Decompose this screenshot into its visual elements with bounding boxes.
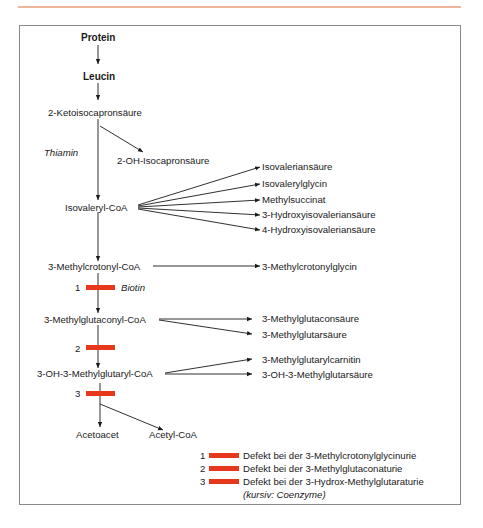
side-isovaleriansaeure: Isovaleriansäure	[262, 161, 332, 172]
defect-number-2: 2	[75, 343, 80, 354]
defect-number-1: 1	[75, 282, 80, 293]
node-2-ketoisocapronsaeure: 2-Ketoisocapronsäure	[48, 107, 142, 118]
node-3-methylcrotonyl-coa: 3-Methylcrotonyl-CoA	[48, 261, 140, 272]
legend-number-1: 1	[200, 450, 205, 461]
node-leucin: Leucin	[83, 71, 115, 82]
node-hmg-coa: 3-OH-3-Methylglutaryl-CoA	[37, 368, 153, 379]
legend-label-1: Defekt bei der 3-Methylcrotonylglycinuri…	[243, 450, 416, 461]
side-3-oh-3-methylglutarsaeure: 3-OH-3-Methylglutarsäure	[262, 369, 373, 380]
node-acetoacet: Acetoacet	[76, 429, 119, 440]
legend-bar-2	[209, 466, 239, 471]
node-protein: Protein	[81, 32, 115, 43]
legend-bar-1	[209, 453, 239, 458]
side-3-methylglutarylcarnitin: 3-Methylglutarylcarnitin	[262, 354, 361, 365]
side-isovalerylglycin: Isovalerylglycin	[262, 178, 327, 189]
legend-bar-3	[209, 479, 239, 484]
legend-note: (kursiv: Coenzyme)	[243, 489, 326, 500]
coenzyme-thiamin: Thiamin	[44, 147, 78, 158]
side-4-hydroxyisovaleriansaeure: 4-Hydroxyisovaleriansäure	[262, 224, 376, 235]
legend-number-2: 2	[200, 463, 205, 474]
side-2-oh-isocapronsaeure: 2-OH-Isocapronsäure	[117, 155, 209, 166]
node-3-methylglutaconyl-coa: 3-Methylglutaconyl-CoA	[44, 314, 146, 325]
node-isovaleryl-coa: Isovaleryl-CoA	[65, 202, 127, 213]
side-3-hydroxyisovaleriansaeure: 3-Hydroxyisovaleriansäure	[262, 209, 376, 220]
side-methylsuccinat: Methylsuccinat	[262, 194, 325, 205]
coenzyme-biotin: Biotin	[121, 282, 145, 293]
side-3-methylglutaconsaeure: 3-Methylglutaconsäure	[262, 313, 359, 324]
legend-label-3: Defekt bei der 3-Hydrox-Methylglutaratur…	[243, 476, 424, 487]
defect-bar-3	[86, 391, 115, 396]
legend-label-2: Defekt bei der 3-Methylglutaconaturie	[243, 463, 402, 474]
side-3-methylglutarsaeure: 3-Methylglutarsäure	[262, 329, 347, 340]
defect-bar-1	[86, 285, 115, 290]
defect-number-3: 3	[75, 388, 80, 399]
node-acetyl-coa: Acetyl-CoA	[149, 429, 197, 440]
legend-number-3: 3	[200, 476, 205, 487]
defect-bar-2	[86, 345, 115, 350]
side-3-methylcrotonylglycin: 3-Methylcrotonylglycin	[262, 261, 357, 272]
